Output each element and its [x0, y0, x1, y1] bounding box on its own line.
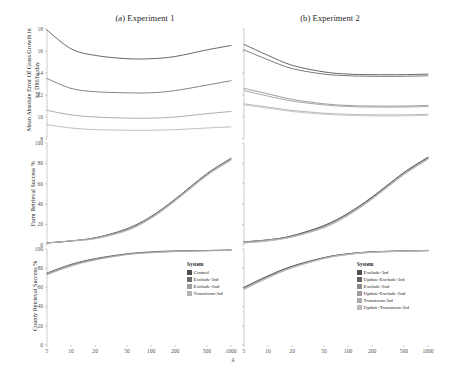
x-tick-label: 50	[118, 348, 136, 354]
series-line	[47, 159, 231, 243]
legend-swatch-icon	[187, 284, 192, 289]
x-tick-label: 5	[235, 348, 253, 354]
y-tick-label: 60	[21, 284, 43, 290]
legend-swatch-icon	[357, 305, 362, 310]
series-line	[244, 158, 428, 242]
legend-b-title: System	[357, 262, 409, 267]
x-tick-label: 200	[166, 348, 184, 354]
legend-a-title: System	[187, 262, 223, 267]
x-tick-label: 1000	[419, 348, 437, 354]
legend-item-label: Update-Exclude-3rd	[364, 277, 405, 282]
legend-item-label: Exclude-2nd	[364, 284, 390, 289]
legend-swatch-icon	[357, 270, 362, 275]
y-tick-label: 16	[21, 48, 43, 54]
x-tick-label: 500	[395, 348, 413, 354]
y-tick-label: 12	[21, 92, 43, 98]
series-line	[47, 159, 231, 243]
legend-item-b-5[interactable]: Update-Transform-3rd	[357, 304, 409, 311]
series-line	[47, 160, 231, 243]
y-tick-label: 40	[21, 201, 43, 207]
x-tick-label: 10	[62, 348, 80, 354]
legend-item-label: Exclude-2nd	[194, 284, 220, 289]
series-line	[244, 159, 428, 243]
legend-item-a-2[interactable]: Exclude-2nd	[187, 283, 223, 290]
series-line	[244, 157, 428, 242]
legend-item-b-1[interactable]: Update-Exclude-3rd	[357, 276, 409, 283]
series-line	[47, 158, 231, 243]
figure-root: (a) Experiment 1 (b) Experiment 2 Mean A…	[0, 0, 466, 376]
y-tick-label: 100	[21, 246, 43, 252]
legend-experiment-2: System Exclude-3rdUpdate-Exclude-3rdExcl…	[357, 262, 409, 311]
y-tick-label: 10	[21, 114, 43, 120]
legend-experiment-1: System ControlExclude-3rdExclude-2ndTran…	[187, 262, 223, 297]
plot-canvas	[0, 0, 466, 376]
y-tick-label: 14	[21, 70, 43, 76]
x-tick-label: 100	[339, 348, 357, 354]
x-tick-label: 100	[142, 348, 160, 354]
legend-item-b-3[interactable]: Update-Exclude-2nd	[357, 290, 409, 297]
series-line	[244, 157, 428, 242]
y-tick-label: 40	[21, 303, 43, 309]
legend-item-label: Transform-3rd	[194, 291, 223, 296]
x-tick-label: 200	[363, 348, 381, 354]
legend-item-b-4[interactable]: Transform-3rd	[357, 297, 409, 304]
legend-item-a-3[interactable]: Transform-3rd	[187, 290, 223, 297]
y-tick-label: 18	[21, 26, 43, 32]
series-line	[47, 79, 231, 94]
legend-item-a-1[interactable]: Exclude-3rd	[187, 276, 223, 283]
legend-item-label: Update-Transform-3rd	[364, 305, 409, 310]
legend-item-b-0[interactable]: Exclude-3rd	[357, 269, 409, 276]
legend-swatch-icon	[357, 291, 362, 296]
series-line	[244, 50, 428, 76]
legend-swatch-icon	[187, 270, 192, 275]
series-line	[244, 105, 428, 116]
x-tick-label: 500	[198, 348, 216, 354]
x-tick-label: 20	[86, 348, 104, 354]
series-line	[244, 44, 428, 74]
y-tick-label: 0	[21, 342, 43, 348]
legend-item-b-2[interactable]: Exclude-2nd	[357, 283, 409, 290]
x-tick-label: 20	[283, 348, 301, 354]
legend-item-label: Exclude-3rd	[194, 277, 219, 282]
x-tick-label: 50	[315, 348, 333, 354]
legend-item-label: Transform-3rd	[364, 298, 393, 303]
y-tick-label: 80	[21, 160, 43, 166]
legend-item-a-0[interactable]: Control	[187, 269, 223, 276]
y-tick-label: 20	[21, 221, 43, 227]
legend-swatch-icon	[357, 298, 362, 303]
y-tick-label: 60	[21, 181, 43, 187]
legend-swatch-icon	[187, 291, 192, 296]
x-tick-label: 5	[38, 348, 56, 354]
series-line	[47, 30, 231, 59]
y-tick-label: 100	[21, 140, 43, 146]
series-line	[47, 110, 231, 118]
y-tick-label: 20	[21, 323, 43, 329]
series-line	[244, 159, 428, 243]
legend-item-label: Exclude-3rd	[364, 270, 389, 275]
legend-swatch-icon	[187, 277, 192, 282]
legend-swatch-icon	[357, 284, 362, 289]
y-tick-label: 80	[21, 265, 43, 271]
legend-item-label: Control	[194, 270, 209, 275]
series-line	[47, 125, 231, 131]
series-line	[244, 158, 428, 242]
legend-swatch-icon	[357, 277, 362, 282]
x-tick-label: 10	[259, 348, 277, 354]
legend-item-label: Update-Exclude-2nd	[364, 291, 406, 296]
